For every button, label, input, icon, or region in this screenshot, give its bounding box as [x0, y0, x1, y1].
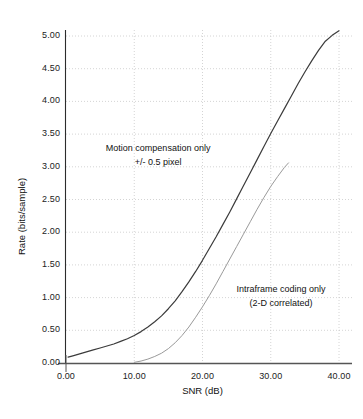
data-series-group [68, 31, 339, 363]
chart-figure: 0.000.501.001.502.002.503.003.504.004.50… [0, 0, 363, 419]
y-tick-label: 1.50 [24, 259, 60, 269]
x-tick-label: 0.00 [41, 371, 91, 381]
y-tick-label: 2.50 [24, 194, 60, 204]
motion-compensation-label-line2: +/- 0.5 pixel [83, 155, 233, 169]
intraframe-label-line1: Intraframe coding only [206, 282, 356, 296]
motion-compensation-label-line1: Motion compensation only [83, 141, 233, 155]
y-tick-label: 4.50 [24, 63, 60, 73]
series-line-intraframe [134, 163, 288, 362]
y-tick-label: 3.00 [24, 161, 60, 171]
y-tick-label: 3.50 [24, 128, 60, 138]
y-tick-label: 0.00 [24, 357, 60, 367]
y-tick-label: 0.50 [24, 324, 60, 334]
x-tick-label: 40.00 [314, 371, 363, 381]
x-tick-label: 30.00 [246, 371, 296, 381]
y-tick-label: 5.00 [24, 30, 60, 40]
x-tick-label: 20.00 [178, 371, 228, 381]
y-tick-label: 2.00 [24, 226, 60, 236]
y-axis-title: Rate (bits/sample) [16, 178, 27, 255]
y-tick-label: 4.00 [24, 95, 60, 105]
intraframe-label: Intraframe coding only(2-D correlated) [206, 282, 356, 310]
y-tick-label: 1.00 [24, 292, 60, 302]
x-axis-title: SNR (dB) [163, 385, 243, 396]
intraframe-label-line2: (2-D correlated) [206, 296, 356, 310]
x-tick-label: 10.00 [109, 371, 159, 381]
motion-compensation-label: Motion compensation only+/- 0.5 pixel [83, 141, 233, 169]
